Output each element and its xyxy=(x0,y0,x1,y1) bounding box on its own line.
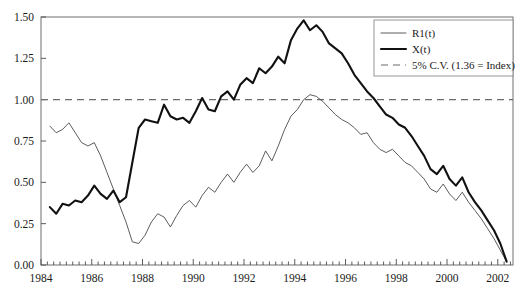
x-tick-label: 1992 xyxy=(233,272,256,284)
x-tick-label: 2000 xyxy=(436,272,459,284)
y-tick-label: 1.00 xyxy=(14,94,34,106)
y-tick-label: 0.25 xyxy=(14,218,34,230)
series-line-r1 xyxy=(50,95,507,262)
x-tick-label: 2002 xyxy=(486,272,509,284)
y-tick-label: 0.50 xyxy=(14,176,34,188)
y-tick-label: 1.25 xyxy=(14,52,34,64)
x-tick-label: 1986 xyxy=(80,272,103,284)
x-tick-label: 1994 xyxy=(283,272,306,284)
x-tick-label: 1990 xyxy=(182,272,205,284)
legend-label: 5% C.V. (1.36 = Index) xyxy=(412,59,515,72)
line-chart: 0.000.250.500.751.001.251.50 19841986198… xyxy=(0,0,524,304)
chart-legend: R1(t)X(t)5% C.V. (1.36 = Index) xyxy=(374,20,515,76)
y-tick-label: 0.00 xyxy=(14,259,34,271)
legend-label: R1(t) xyxy=(412,27,436,40)
x-tick-label: 1996 xyxy=(334,272,357,284)
x-tick-label: 1984 xyxy=(30,272,53,284)
x-tick-label: 1988 xyxy=(131,272,154,284)
chart-container: 0.000.250.500.751.001.251.50 19841986198… xyxy=(0,0,524,304)
x-tick-label: 1998 xyxy=(385,272,408,284)
y-tick-label: 0.75 xyxy=(14,135,34,147)
y-tick-label: 1.50 xyxy=(14,11,34,23)
legend-label: X(t) xyxy=(412,43,431,56)
x-axis-ticks: 1984198619881990199219941996199820002002 xyxy=(30,259,511,284)
